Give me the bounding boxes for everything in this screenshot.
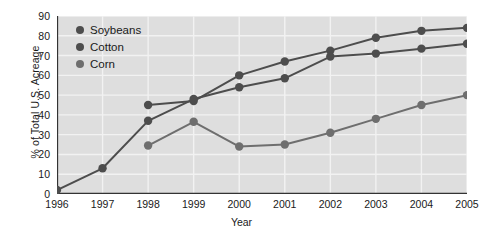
data-point xyxy=(235,142,243,150)
y-tick-label: 40 xyxy=(28,110,50,121)
chart-legend: SoybeansCottonCorn xyxy=(76,21,206,72)
data-point xyxy=(372,49,380,57)
y-axis-tick-labels: 0102030405060708090 xyxy=(24,16,50,194)
y-tick-label: 90 xyxy=(28,11,50,22)
data-point xyxy=(326,128,334,136)
x-tick-label: 1998 xyxy=(124,198,172,210)
data-point xyxy=(372,115,380,123)
legend-label: Soybeans xyxy=(90,24,141,36)
data-point xyxy=(189,95,197,103)
y-tick-label: 20 xyxy=(28,149,50,160)
data-point xyxy=(326,52,334,60)
data-point xyxy=(463,91,467,99)
data-point xyxy=(235,71,243,79)
data-point xyxy=(144,117,152,125)
data-point xyxy=(372,34,380,42)
y-tick-label: 80 xyxy=(28,31,50,42)
data-point xyxy=(417,44,425,52)
legend-item-corn: Corn xyxy=(76,55,206,72)
x-tick-label: 1999 xyxy=(170,198,218,210)
x-tick-label: 1997 xyxy=(79,198,127,210)
x-tick-label: 2005 xyxy=(443,198,483,210)
data-point xyxy=(144,141,152,149)
data-point xyxy=(463,39,467,47)
data-point xyxy=(281,57,289,65)
data-point xyxy=(417,101,425,109)
y-tick-label: 50 xyxy=(28,90,50,101)
x-tick-label: 2004 xyxy=(397,198,445,210)
y-tick-label: 10 xyxy=(28,169,50,180)
data-point xyxy=(281,140,289,148)
data-point xyxy=(417,27,425,35)
data-point xyxy=(281,74,289,82)
legend-marker-icon xyxy=(76,43,84,51)
data-point xyxy=(235,83,243,91)
legend-item-soybeans: Soybeans xyxy=(76,21,206,38)
x-tick-label: 2002 xyxy=(306,198,354,210)
x-tick-label: 2000 xyxy=(215,198,263,210)
chart-figure: % of Total U.S. Acreage 0102030405060708… xyxy=(0,0,483,239)
y-tick-label: 70 xyxy=(28,51,50,62)
data-point xyxy=(189,118,197,126)
x-tick-label: 1996 xyxy=(33,198,81,210)
data-point xyxy=(144,101,152,109)
x-axis-label: Year xyxy=(0,216,483,228)
data-point xyxy=(98,164,106,172)
data-point xyxy=(57,186,61,194)
legend-label: Corn xyxy=(90,58,115,70)
legend-item-cotton: Cotton xyxy=(76,38,206,55)
legend-marker-icon xyxy=(76,26,84,34)
legend-label: Cotton xyxy=(90,41,124,53)
y-tick-label: 60 xyxy=(28,70,50,81)
legend-marker-icon xyxy=(76,60,84,68)
x-tick-label: 2003 xyxy=(352,198,400,210)
x-axis-tick-labels: 1996199719981999200020012002200320042005 xyxy=(57,198,467,212)
x-tick-label: 2001 xyxy=(261,198,309,210)
y-tick-label: 30 xyxy=(28,130,50,141)
data-point xyxy=(463,24,467,32)
